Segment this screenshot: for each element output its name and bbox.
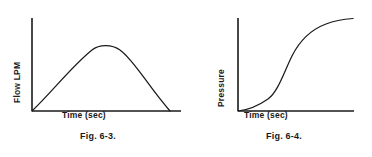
pressure-figure-caption: Fig. 6-4. xyxy=(196,131,372,141)
pressure-curve xyxy=(238,19,353,112)
flow-x-axis-label: Time (sec) xyxy=(62,110,106,120)
figure-sheet: Flow LPM Time (sec) Fig. 6-3. Pressure T… xyxy=(0,0,372,157)
flow-y-axis-label: Flow LPM xyxy=(12,62,22,103)
flow-figure-caption: Fig. 6-3. xyxy=(0,131,196,141)
figure-flow-lpm: Flow LPM Time (sec) Fig. 6-3. xyxy=(0,0,196,157)
flow-curve xyxy=(32,46,170,112)
pressure-x-axis-label: Time (sec) xyxy=(244,110,288,120)
figure-pressure: Pressure Time (sec) Fig. 6-4. xyxy=(196,0,372,157)
pressure-y-axis-label: Pressure xyxy=(216,69,226,107)
